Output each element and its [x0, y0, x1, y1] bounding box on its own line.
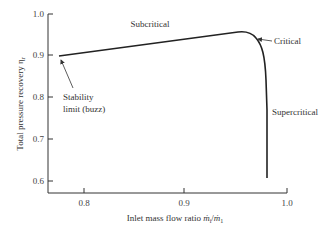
x-axis-label: Inlet mass flow ratio ṁi/ṁ1 — [127, 213, 224, 224]
y-tick-0.9: 0.9 — [33, 50, 45, 60]
x-tick-labels: 0.8 0.9 1.0 — [78, 198, 293, 208]
critical-arrow — [258, 39, 272, 41]
y-tick-0.6: 0.6 — [33, 176, 45, 186]
stability-arrow — [61, 60, 73, 88]
label-stability-line2: limit (buzz) — [63, 104, 105, 114]
chart-canvas: 1.0 0.9 0.8 0.7 0.6 0.8 0.9 1.0 Inlet ma… — [0, 0, 319, 235]
y-tick-1.0: 1.0 — [33, 9, 45, 19]
y-tick-0.8: 0.8 — [33, 92, 45, 102]
y-tick-labels: 1.0 0.9 0.8 0.7 0.6 — [33, 9, 45, 186]
y-tick-0.7: 0.7 — [33, 134, 45, 144]
x-tick-1.0: 1.0 — [281, 198, 293, 208]
x-tick-0.8: 0.8 — [78, 198, 90, 208]
y-axis-label: Total pressure recovery ηr — [15, 57, 26, 150]
label-critical: Critical — [274, 36, 301, 46]
label-subcritical: Subcritical — [131, 19, 170, 29]
x-tick-0.9: 0.9 — [178, 198, 190, 208]
label-stability-line1: Stability — [63, 92, 94, 102]
label-supercritical: Supercritical — [272, 107, 318, 117]
